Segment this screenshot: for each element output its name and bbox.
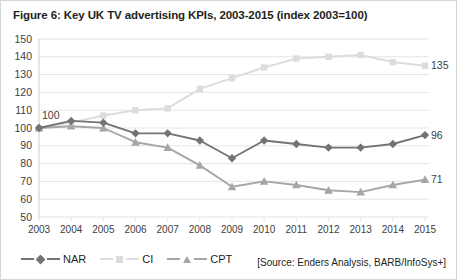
y-axis-tick-70: 70 — [20, 175, 32, 187]
data-point-nar-2011 — [292, 140, 300, 148]
legend-line-ci-2 — [126, 258, 139, 260]
x-axis-tick-2005: 2005 — [92, 224, 115, 235]
x-axis-tick-2011: 2011 — [286, 224, 308, 235]
legend-line-cpt-2 — [194, 258, 207, 260]
data-point-ci-2013 — [357, 52, 363, 58]
data-point-nar-2012 — [324, 143, 332, 151]
series-line-ci — [39, 55, 425, 128]
series-group — [35, 52, 430, 196]
data-point-nar-2008 — [196, 136, 204, 144]
legend-label-ci: CI — [142, 253, 153, 265]
y-axis-tick-90: 90 — [20, 139, 32, 151]
x-axis-tick-2012: 2012 — [317, 224, 340, 235]
y-axis-tick-labels: 5060708090100110120130140150 — [14, 33, 32, 223]
series-line-nar — [39, 121, 425, 158]
data-point-ci-2009 — [229, 75, 235, 81]
legend-label-cpt: CPT — [210, 253, 232, 265]
x-axis-tick-2008: 2008 — [189, 224, 212, 235]
legend-line-nar-2 — [47, 258, 60, 260]
legend-line-nar — [21, 258, 34, 260]
legend-label-nar: NAR — [63, 253, 86, 265]
x-axis-tick-2013: 2013 — [350, 224, 373, 235]
legend-marker-diamond-icon — [36, 254, 46, 264]
data-point-ci-2012 — [325, 54, 331, 60]
annotation-start-100: 100 — [42, 109, 60, 121]
x-axis-tick-2003: 2003 — [28, 224, 51, 235]
x-axis-tick-labels: 2003200420052006200720082009201020112012… — [28, 224, 437, 235]
y-axis-tick-80: 80 — [20, 157, 32, 169]
x-axis-tick-2014: 2014 — [382, 224, 405, 235]
legend-line-cpt — [167, 258, 180, 260]
figure-container: Figure 6: Key UK TV advertising KPIs, 20… — [0, 0, 457, 280]
data-point-ci-2011 — [293, 55, 299, 61]
chart-legend: NAR CI CPT — [21, 253, 232, 265]
data-point-nar-2009 — [228, 154, 236, 162]
y-axis-tick-100: 100 — [14, 122, 32, 134]
source-note: [Source: Enders Analysis, BARB/InfoSys+] — [257, 257, 446, 268]
y-axis-tick-110: 110 — [15, 104, 32, 116]
data-point-nar-2007 — [163, 129, 171, 137]
x-axis-tick-2006: 2006 — [124, 224, 147, 235]
data-point-ci-2005 — [100, 112, 106, 118]
data-point-nar-2006 — [131, 129, 139, 137]
line-chart-svg: 5060708090100110120130140150 20032004200… — [1, 29, 457, 247]
x-axis-tick-2004: 2004 — [60, 224, 83, 235]
data-point-cpt-2008 — [196, 161, 205, 169]
data-point-ci-2014 — [390, 59, 396, 65]
annotation-end-nar: 96 — [431, 129, 443, 141]
legend-line-ci — [100, 258, 113, 260]
y-axis-tick-60: 60 — [20, 193, 32, 205]
x-axis-tick-2009: 2009 — [221, 224, 244, 235]
data-point-nar-2014 — [389, 140, 397, 148]
y-axis-tick-50: 50 — [20, 211, 32, 223]
data-point-ci-2006 — [132, 107, 138, 113]
x-axis-tick-2010: 2010 — [253, 224, 276, 235]
data-point-ci-2015 — [422, 63, 428, 69]
x-axis-tick-2015: 2015 — [414, 224, 437, 235]
legend-item-nar[interactable]: NAR — [21, 253, 86, 265]
legend-item-cpt[interactable]: CPT — [167, 253, 232, 265]
annotation-end-cpt: 71 — [431, 173, 443, 185]
legend-marker-square-icon — [116, 256, 123, 263]
y-axis-tick-150: 150 — [14, 33, 32, 45]
x-axis-tick-2007: 2007 — [157, 224, 180, 235]
gridlines-group — [39, 39, 429, 221]
y-axis-tick-140: 140 — [14, 50, 32, 62]
data-point-nar-2013 — [356, 143, 364, 151]
data-point-nar-2010 — [260, 136, 268, 144]
y-axis-tick-130: 130 — [14, 68, 32, 80]
data-point-ci-2010 — [261, 64, 267, 70]
legend-marker-triangle-icon — [183, 256, 191, 263]
chart-plot-area: 5060708090100110120130140150 20032004200… — [1, 29, 457, 247]
data-point-nar-2015 — [421, 131, 429, 139]
data-point-ci-2008 — [197, 86, 203, 92]
data-point-nar-2005 — [99, 118, 107, 126]
annotation-end-ci: 135 — [431, 59, 449, 71]
y-axis-tick-120: 120 — [14, 86, 32, 98]
legend-item-ci[interactable]: CI — [100, 253, 153, 265]
figure-title: Figure 6: Key UK TV advertising KPIs, 20… — [13, 9, 367, 21]
data-point-ci-2007 — [164, 105, 170, 111]
